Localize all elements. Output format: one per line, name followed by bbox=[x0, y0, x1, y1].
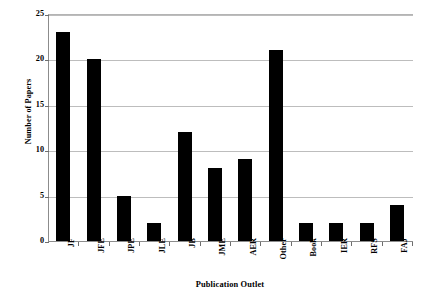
x-tick-label: Book bbox=[309, 238, 318, 278]
x-axis-tick-labels: JFJFEJPEJLEJBJMEAEROtherBookIERRFSFAJ bbox=[48, 246, 413, 280]
y-tick-label: 10 bbox=[14, 146, 44, 154]
y-tick-label: 25 bbox=[14, 10, 44, 18]
y-axis-tick-labels: 0510152025 bbox=[10, 0, 44, 241]
bar bbox=[238, 159, 252, 241]
bar bbox=[117, 196, 131, 241]
x-tick-label: AER bbox=[249, 238, 258, 278]
bar bbox=[56, 32, 70, 241]
bar bbox=[390, 205, 404, 241]
x-tick-label: JFE bbox=[97, 238, 106, 278]
y-tick-label: 5 bbox=[14, 192, 44, 200]
y-tick-label: 0 bbox=[14, 237, 44, 245]
x-tick-label: Other bbox=[279, 238, 288, 278]
y-tick-label: 15 bbox=[14, 101, 44, 109]
bar-chart-figure: Number of Papers 0510152025 JFJFEJPEJLEJ… bbox=[0, 0, 432, 300]
bar bbox=[178, 132, 192, 241]
y-tick-label: 20 bbox=[14, 55, 44, 63]
x-axis-title: Publication Outlet bbox=[48, 280, 412, 289]
x-tick-label: JF bbox=[67, 238, 76, 278]
bar bbox=[269, 50, 283, 241]
bar bbox=[87, 59, 101, 241]
x-tick-label: FAJ bbox=[400, 238, 409, 278]
x-tick-label: JPE bbox=[127, 238, 136, 278]
x-tick-label: IER bbox=[340, 238, 349, 278]
x-tick-label: JME bbox=[218, 238, 227, 278]
x-tick-label: JLE bbox=[158, 238, 167, 278]
x-tick-label: RFS bbox=[370, 238, 379, 278]
bar bbox=[208, 168, 222, 241]
x-tick-label: JB bbox=[188, 238, 197, 278]
bars-layer bbox=[48, 14, 412, 241]
